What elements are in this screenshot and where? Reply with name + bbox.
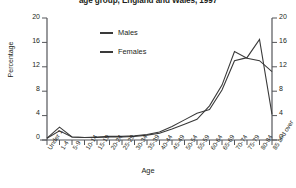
axis-lines xyxy=(40,18,279,140)
plot-area xyxy=(0,0,296,188)
chart-container: age group, England and Wales, 1997 Perce… xyxy=(0,0,296,188)
y-axis-ticks-left xyxy=(42,18,47,140)
y-axis-ticks-right xyxy=(272,18,277,140)
series-line-females xyxy=(47,52,272,139)
